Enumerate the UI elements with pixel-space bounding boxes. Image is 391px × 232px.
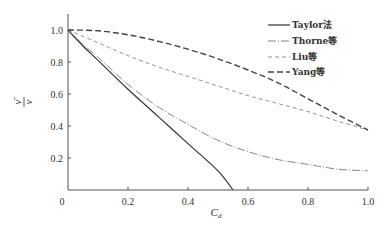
line-chart: 0.20.40.60.81.0 0.20.40.60.81.0 0 Taylor… [0, 0, 391, 232]
legend-label: Taylor法 [292, 19, 332, 30]
x-axis-title: Cd [211, 206, 222, 220]
y-tick-label: 0.8 [51, 57, 64, 68]
y-tick-label: 0.2 [51, 153, 64, 164]
x-tick-label: 0.6 [242, 196, 255, 207]
origin-label: 0 [60, 196, 65, 207]
x-tick-label: 0.4 [182, 196, 195, 207]
x-tick-label: 0.8 [302, 196, 315, 207]
y-tick-label: 0.6 [51, 89, 64, 100]
series-line-1 [68, 30, 368, 171]
legend-label: Thorne等 [292, 35, 337, 46]
y-axis-title-denominator: ν [22, 99, 34, 104]
legend-label: Yang等 [291, 66, 325, 77]
series-line-0 [68, 30, 233, 190]
x-tick-label: 0.2 [122, 196, 135, 207]
y-tick-label: 0.4 [51, 121, 64, 132]
y-tick-label: 1.0 [51, 25, 64, 36]
series-group [68, 30, 368, 190]
legend: Taylor法Thorne等Liu等Yang等 [268, 19, 337, 77]
legend-label: Liu等 [292, 51, 317, 62]
x-tick-label: 1.0 [362, 196, 375, 207]
y-axis-title: ν̄ ν [11, 97, 34, 107]
